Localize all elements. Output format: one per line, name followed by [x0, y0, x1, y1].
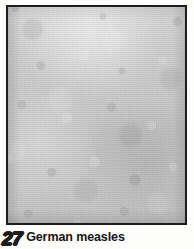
caption-label: German measles: [26, 231, 125, 244]
photo-plate: [6, 5, 187, 225]
photo-plate-page: 27 German measles: [0, 0, 194, 249]
plate-number: 27: [2, 229, 26, 248]
vignette-overlay: [8, 7, 185, 223]
caption: 27 German measles: [2, 227, 192, 247]
photo-frame-border: [6, 5, 187, 225]
